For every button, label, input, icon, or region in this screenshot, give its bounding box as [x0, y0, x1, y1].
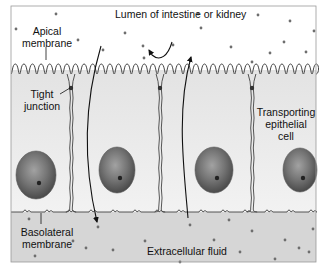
transporting-label-line3: cell — [256, 130, 316, 142]
basolateral-label-line2: membrane — [18, 238, 76, 250]
basolateral-membrane-label: Basolateral membrane — [18, 226, 76, 250]
tight-label-line1: Tight — [20, 88, 64, 100]
tight-label-line2: junction — [20, 100, 64, 112]
nucleus — [195, 147, 233, 193]
basolateral-label-line1: Basolateral — [18, 226, 76, 238]
apical-label-line2: membrane — [21, 37, 73, 49]
apical-membrane-label: Apical membrane — [21, 25, 73, 49]
tight-junction-dot — [158, 86, 162, 90]
lumen-label: Lumen of intestine or kidney — [115, 8, 246, 20]
nucleus — [99, 147, 135, 193]
transporting-label-line1: Transporting — [256, 106, 316, 118]
tight-junction-label: Tight junction — [20, 88, 64, 112]
extracellular-fluid-label: Extracellular fluid — [147, 245, 227, 257]
nucleus — [283, 148, 317, 192]
tight-junction-dot — [250, 86, 254, 90]
transporting-label-line2: epithelial — [256, 118, 316, 130]
apical-label-line1: Apical — [21, 25, 73, 37]
nucleus — [16, 151, 56, 199]
transporting-epithelial-cell-label: Transporting epithelial cell — [256, 106, 316, 142]
